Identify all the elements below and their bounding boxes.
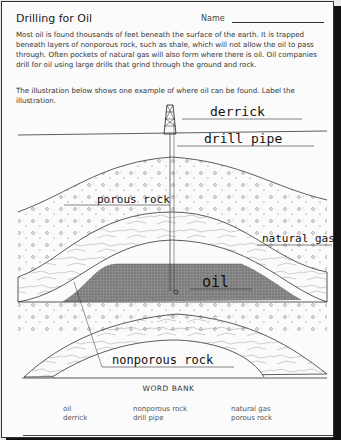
word-bank-column-2: nonporous rock drill pipe [133, 405, 187, 423]
word-bank-item: derrick [63, 414, 87, 423]
label-oil: oil [202, 273, 229, 291]
word-bank-column-3: natural gas porous rock [231, 405, 272, 423]
label-derrick: derrick [210, 104, 265, 119]
word-bank-item: natural gas [231, 405, 272, 414]
label-porous-rock: porous rock [97, 193, 170, 206]
word-bank-item: porous rock [231, 414, 272, 423]
word-bank-item: nonporous rock [133, 405, 187, 414]
bottom-rule [23, 435, 333, 436]
label-natural-gas: natural gas [262, 232, 335, 245]
word-bank-item: drill pipe [133, 414, 187, 423]
label-nonporous-rock: nonporous rock [112, 353, 214, 367]
label-drill-pipe: drill pipe [204, 131, 282, 146]
word-bank-column-1: oil derrick [63, 405, 87, 423]
word-bank-item: oil [63, 405, 87, 414]
oil-drilling-illustration: derrick drill pipe porous rock natural g… [2, 2, 335, 382]
word-bank-title: WORD BANK [2, 384, 335, 393]
worksheet-page: Drilling for Oil Name Most oil is found … [1, 1, 334, 438]
